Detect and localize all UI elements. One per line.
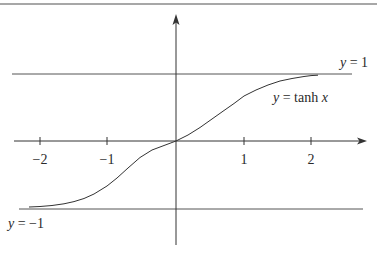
- tick-label-minus-2: −2: [33, 152, 48, 167]
- tick-label-1: 1: [241, 152, 248, 167]
- label-curve: y = tanh x: [271, 90, 329, 105]
- tick-label-minus-1: −1: [100, 152, 115, 167]
- label-asymptote-y-minus-1: y = −1: [6, 216, 44, 231]
- tick-label-2: 2: [308, 152, 315, 167]
- tanh-figure: −2 −1 1 2 y = 1 y = tanh x y = −1: [0, 0, 377, 254]
- label-asymptote-y-1: y = 1: [338, 55, 368, 70]
